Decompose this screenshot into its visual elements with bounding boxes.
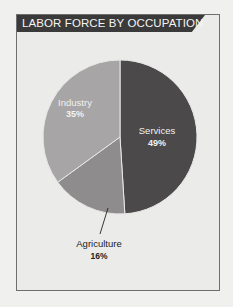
agriculture-label: Agriculture — [76, 238, 121, 249]
pie-chart: Industry 35% Services 49% Agriculture 16… — [0, 0, 233, 307]
industry-pct: 35% — [66, 109, 84, 119]
services-label: Services — [139, 125, 176, 136]
services-pct: 49% — [148, 138, 166, 148]
pie-slice-services — [120, 60, 197, 214]
industry-label: Industry — [58, 97, 92, 108]
agriculture-pct: 16% — [90, 251, 107, 261]
